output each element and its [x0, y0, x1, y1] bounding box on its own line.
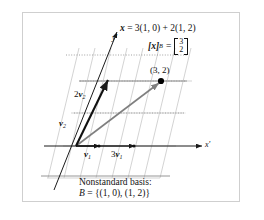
basis-grid-horizontal-lines	[47, 81, 192, 178]
equation-x-annotation: x = 3(1, 0) + 2(1, 2)	[120, 24, 196, 34]
vector-label-v2: v2	[59, 119, 66, 130]
caption-line-2: B = {(1, 0), (1, 2)}	[79, 189, 150, 199]
caption-line-1: Nonstandard basis:	[79, 178, 152, 188]
x-prime-axis-label: x'	[205, 141, 210, 149]
coord-vector-equals: =	[163, 42, 174, 52]
coordinate-vector-annotation: [x]B = 3 2	[148, 38, 188, 55]
point-label-3-2: (3, 2)	[150, 66, 170, 75]
y-prime-axis	[54, 32, 117, 190]
figure-container: y' x = 3(1, 0) + 2(1, 2) [x]B = 3 2 (3, …	[0, 0, 264, 220]
dotted-guide-lines	[66, 55, 188, 113]
vector-label-v1: v1	[84, 150, 91, 161]
resultant-vector-x	[76, 83, 159, 146]
vector-label-2v2: 2v2	[74, 90, 85, 101]
vector-label-3v1: 3v1	[111, 150, 122, 161]
tick-dot-v1	[98, 145, 101, 148]
tick-dot-3v1	[133, 145, 136, 148]
coord-vector-bracket-label: [x]	[148, 42, 159, 52]
coord-vector-value-bottom: 2	[179, 46, 183, 54]
bracket-right	[184, 38, 188, 55]
point-3-2	[158, 78, 164, 84]
y-prime-axis-label: y'	[112, 34, 117, 42]
